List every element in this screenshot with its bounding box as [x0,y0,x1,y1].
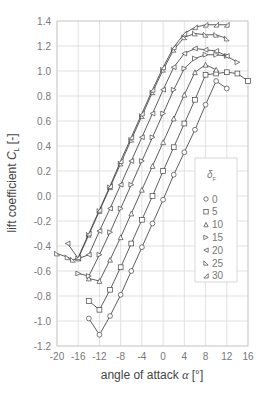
legend-entry-label: 15 [212,232,224,243]
square-marker [235,71,240,76]
y-tick-label: -0.4 [34,241,52,252]
y-tick-label: 1.0 [37,66,51,77]
triangle-up-marker [139,187,144,192]
x-tick-label: 0 [160,351,166,362]
triangle-up-marker [203,62,208,67]
y-tick-label: 0.2 [37,166,51,177]
square-marker [204,210,208,214]
legend-entry-label: 0 [212,194,218,205]
circle-marker [150,221,155,226]
legend-entry-label: 25 [212,258,224,269]
triangle-corner-marker [65,255,70,260]
circle-marker [224,86,229,91]
circle-marker [86,316,91,321]
x-tick-label: -8 [116,351,125,362]
triangle-corner-marker [150,87,155,92]
y-tick-label: 1.2 [37,41,51,52]
square-marker [246,79,251,84]
triangle-left-marker [171,65,176,70]
triangle-up-marker [150,164,155,169]
legend-entry-label: 30 [212,270,224,281]
lift-coefficient-chart: 1.41.21.00.80.60.40.20.0-0.2-0.4-0.6-0.8… [0,0,268,399]
triangle-right-marker [129,182,134,187]
square-marker [182,121,187,126]
circle-marker [214,79,219,84]
y-tick-label: -0.8 [34,291,52,302]
square-marker [97,307,102,312]
y-tick-label: 0.0 [37,191,51,202]
y-axis-ticks: 1.41.21.00.80.60.40.20.0-0.2-0.4-0.6-0.8… [34,16,52,352]
square-marker [203,72,208,77]
triangle-up-marker [129,211,134,216]
circle-marker [182,150,187,155]
square-marker [108,287,113,292]
x-tick-label: 12 [221,351,233,362]
circle-marker [204,197,208,201]
circle-marker [139,245,144,250]
y-tick-label: 0.8 [37,91,51,102]
square-marker [118,265,123,270]
triangle-corner-marker [129,135,134,140]
circle-marker [171,172,176,177]
triangle-left-marker [150,111,155,116]
y-tick-label: -1.0 [34,316,52,327]
x-axis-ticks: -20-16-12-8-40481216 [50,351,254,362]
y-tick-label: -0.6 [34,266,52,277]
square-marker [86,299,91,304]
square-marker [193,97,198,102]
triangle-right-marker [150,135,155,140]
y-tick-label: 1.4 [37,16,51,27]
circle-marker [161,197,166,202]
triangle-right-marker [193,56,198,61]
triangle-corner-marker [171,45,176,50]
triangle-left-marker [86,252,91,257]
triangle-up-marker [214,67,219,72]
square-marker [129,241,134,246]
square-marker [171,145,176,150]
triangle-left-marker [193,46,198,51]
triangle-up-marker [161,140,166,145]
triangle-corner-marker [193,25,198,30]
y-axis-label: lift coefficient CL [-] [5,133,20,232]
y-tick-label: -1.2 [34,341,52,352]
legend-entry-label: 5 [212,206,218,217]
x-tick-label: -12 [92,351,107,362]
x-tick-label: -20 [50,351,65,362]
triangle-up-marker [171,116,176,121]
triangle-left-marker [108,206,113,211]
square-marker [150,194,155,199]
circle-marker [108,314,113,319]
y-tick-label: 0.6 [37,116,51,127]
circle-marker [118,292,123,297]
circle-marker [203,102,208,107]
square-marker [139,217,144,222]
x-tick-label: 16 [242,351,254,362]
x-tick-label: -16 [71,351,86,362]
circle-marker [193,127,198,132]
triangle-up-marker [118,235,123,240]
triangle-up-marker [108,257,113,262]
y-tick-label: -0.2 [34,216,52,227]
circle-marker [129,269,134,274]
triangle-right-marker [235,60,240,65]
x-tick-label: 8 [203,351,209,362]
legend-entry-label: 10 [212,219,224,230]
legend: δF 051015202530 [195,158,237,282]
y-tick-label: 0.4 [37,141,51,152]
triangle-left-marker [65,241,70,246]
circle-marker [97,332,102,337]
triangle-left-marker [129,159,134,164]
triangle-up-marker [182,92,187,97]
square-marker [224,70,229,75]
triangle-up-marker [193,70,198,75]
legend-entry-label: 20 [212,245,224,256]
triangle-right-marker [171,87,176,92]
x-axis-label: angle of attack α [°] [101,368,204,382]
x-tick-label: -4 [137,351,146,362]
square-marker [161,169,166,174]
triangle-corner-marker [214,32,219,37]
x-tick-label: 4 [182,351,188,362]
triangle-right-marker [108,230,113,235]
